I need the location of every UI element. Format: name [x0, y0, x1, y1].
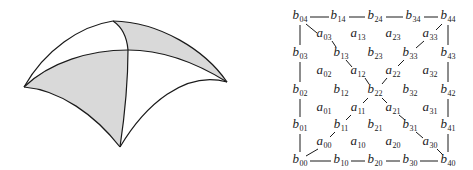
label-symbol: b — [441, 116, 448, 131]
a-label-22: a22 — [386, 63, 401, 79]
label-subscript: 23 — [375, 52, 383, 61]
a-label-20: a20 — [386, 134, 401, 150]
b-label-20: b20 — [368, 152, 383, 168]
label-symbol: a — [351, 133, 358, 148]
label-subscript: 13 — [341, 52, 349, 61]
label-subscript: 11 — [358, 107, 366, 116]
label-symbol: b — [331, 7, 338, 22]
label-symbol: b — [334, 44, 341, 59]
label-symbol: a — [423, 62, 430, 77]
b-label-40: b40 — [441, 152, 456, 168]
b-label-02: b02 — [293, 82, 308, 98]
a-label-23: a23 — [386, 26, 401, 42]
b-label-30: b30 — [403, 152, 418, 168]
label-subscript: 32 — [410, 89, 418, 98]
label-symbol: b — [368, 81, 375, 96]
label-symbol: a — [317, 99, 324, 114]
b-label-21: b21 — [368, 117, 383, 133]
a-label-02: a02 — [317, 63, 332, 79]
label-subscript: 31 — [430, 107, 438, 116]
label-subscript: 10 — [341, 159, 349, 168]
label-symbol: b — [334, 81, 341, 96]
label-symbol: a — [317, 62, 324, 77]
label-subscript: 03 — [324, 33, 332, 42]
label-subscript: 31 — [410, 124, 418, 133]
surface-patch — [24, 21, 227, 147]
b-label-34: b34 — [406, 8, 421, 24]
label-subscript: 33 — [430, 33, 438, 42]
label-subscript: 01 — [324, 107, 332, 116]
label-symbol: b — [368, 116, 375, 131]
label-symbol: b — [368, 44, 375, 59]
label-subscript: 21 — [393, 107, 401, 116]
label-symbol: b — [334, 116, 341, 131]
b-label-03: b03 — [293, 45, 308, 61]
label-symbol: b — [441, 44, 448, 59]
b-label-04: b04 — [293, 8, 308, 24]
label-symbol: b — [403, 151, 410, 166]
label-subscript: 22 — [393, 70, 401, 79]
a-label-10: a10 — [351, 134, 366, 150]
label-subscript: 43 — [448, 52, 456, 61]
label-symbol: a — [423, 133, 430, 148]
label-subscript: 00 — [324, 141, 332, 150]
label-symbol: b — [403, 44, 410, 59]
label-subscript: 02 — [300, 89, 308, 98]
label-subscript: 12 — [341, 89, 349, 98]
label-symbol: b — [368, 151, 375, 166]
a-label-30: a30 — [423, 134, 438, 150]
a-label-01: a01 — [317, 100, 332, 116]
b-label-00: b00 — [293, 152, 308, 168]
b-label-23: b23 — [368, 45, 383, 61]
label-symbol: a — [423, 25, 430, 40]
label-subscript: 33 — [410, 52, 418, 61]
label-subscript: 11 — [341, 124, 349, 133]
label-subscript: 24 — [375, 15, 383, 24]
label-symbol: b — [441, 7, 448, 22]
a-label-03: a03 — [317, 26, 332, 42]
label-symbol: a — [317, 133, 324, 148]
label-subscript: 40 — [448, 159, 456, 168]
b-label-10: b10 — [334, 152, 349, 168]
net-edge — [306, 24, 317, 33]
a-label-32: a32 — [423, 63, 438, 79]
label-subscript: 10 — [358, 141, 366, 150]
label-symbol: a — [351, 62, 358, 77]
label-subscript: 30 — [430, 141, 438, 150]
b-label-01: b01 — [293, 117, 308, 133]
label-symbol: a — [351, 25, 358, 40]
a-label-21: a21 — [386, 100, 401, 116]
label-symbol: b — [293, 44, 300, 59]
b-label-31: b31 — [403, 117, 418, 133]
label-symbol: b — [293, 151, 300, 166]
b-label-13: b13 — [334, 45, 349, 61]
label-subscript: 41 — [448, 124, 456, 133]
a-label-12: a12 — [351, 63, 366, 79]
label-subscript: 22 — [375, 89, 383, 98]
label-symbol: b — [293, 116, 300, 131]
b-label-14: b14 — [331, 8, 346, 24]
b-label-44: b44 — [441, 8, 456, 24]
label-symbol: a — [423, 99, 430, 114]
shaded-subpatch-upper-right — [113, 21, 227, 82]
label-symbol: a — [386, 99, 393, 114]
b-label-42: b42 — [441, 82, 456, 98]
label-symbol: b — [293, 81, 300, 96]
b-label-12: b12 — [334, 82, 349, 98]
b-label-32: b32 — [403, 82, 418, 98]
label-symbol: b — [403, 116, 410, 131]
label-subscript: 34 — [413, 15, 421, 24]
label-symbol: a — [386, 62, 393, 77]
a-label-31: a31 — [423, 100, 438, 116]
label-symbol: b — [334, 151, 341, 166]
label-symbol: b — [441, 151, 448, 166]
label-subscript: 14 — [338, 15, 346, 24]
edge-right-bottom — [120, 80, 227, 147]
b-label-24: b24 — [368, 8, 383, 24]
b-label-11: b11 — [334, 117, 349, 133]
label-symbol: a — [386, 25, 393, 40]
label-subscript: 42 — [448, 89, 456, 98]
label-subscript: 04 — [300, 15, 308, 24]
label-subscript: 03 — [300, 52, 308, 61]
b-label-22: b22 — [368, 82, 383, 98]
